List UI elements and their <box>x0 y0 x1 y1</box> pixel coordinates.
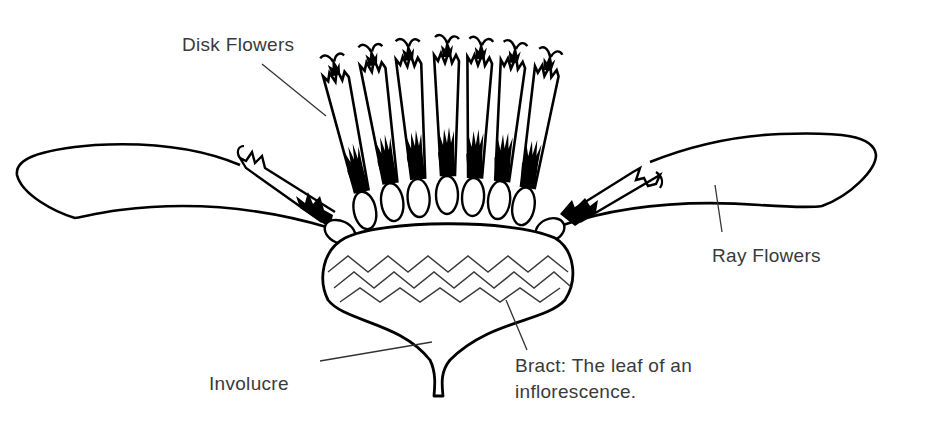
label-disk-flowers: Disk Flowers <box>182 33 294 57</box>
ray-flower-right-petal <box>560 133 876 226</box>
leader-involucre <box>320 342 432 361</box>
leader-disk-flowers <box>262 64 326 116</box>
flower-head-diagram <box>0 0 932 431</box>
label-involucre: Involucre <box>209 372 289 396</box>
label-bract-line1: Bract: The leaf of an <box>515 354 692 378</box>
disk-flowers <box>319 35 563 232</box>
label-ray-flowers: Ray Flowers <box>712 244 821 268</box>
label-bract-line2: inflorescence. <box>515 380 636 404</box>
